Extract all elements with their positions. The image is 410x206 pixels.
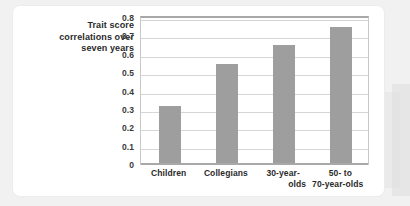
y-axis-tick-label: 0.6: [122, 50, 134, 60]
x-axis-tick-label-line: Collegians: [204, 168, 248, 178]
y-axis-tick-label: 0.2: [122, 123, 134, 133]
x-axis-tick-label-line: 70-year-olds: [309, 179, 371, 190]
y-axis-tick-labels: 0.80.70.60.50.40.30.20.10: [108, 16, 137, 165]
x-axis-tick-labels: ChildrenCollegians30-year-olds50- to70-y…: [140, 168, 369, 196]
x-axis-tick-label-line: Children: [151, 168, 186, 178]
bar[interactable]: [273, 45, 295, 163]
figure-root: Trait score correlations over seven year…: [0, 0, 410, 206]
y-axis-tick-label: 0.3: [122, 105, 134, 115]
bars: [141, 18, 368, 163]
bar[interactable]: [216, 64, 238, 163]
x-axis-tick-label: 50- to70-year-olds: [309, 168, 371, 190]
x-axis-line: [141, 163, 368, 165]
figure-card: Trait score correlations over seven year…: [13, 6, 384, 196]
y-axis-tick-label: 0.1: [122, 142, 134, 152]
bar[interactable]: [330, 27, 352, 163]
y-axis-tick-label: 0.8: [122, 13, 134, 23]
x-axis-tick-label-line: 30-year-: [252, 168, 314, 179]
x-axis-tick-label: Children: [138, 168, 200, 179]
bar-chart: 0.80.70.60.50.40.30.20.10 ChildrenColleg…: [108, 16, 370, 188]
x-axis-tick-label: Collegians: [195, 168, 257, 179]
plot-area: [140, 16, 369, 165]
y-axis-tick-label: 0: [129, 160, 134, 170]
x-axis-tick-label: 30-year-olds: [252, 168, 314, 190]
bar[interactable]: [159, 106, 181, 163]
x-axis-tick-label-line: 50- to: [309, 168, 371, 179]
y-axis-tick-label: 0.7: [122, 31, 134, 41]
y-axis-tick-label: 0.4: [122, 87, 134, 97]
y-axis-tick-label: 0.5: [122, 68, 134, 78]
page-scan-artifact: [392, 84, 410, 196]
x-axis-tick-label-line: olds: [252, 179, 314, 190]
